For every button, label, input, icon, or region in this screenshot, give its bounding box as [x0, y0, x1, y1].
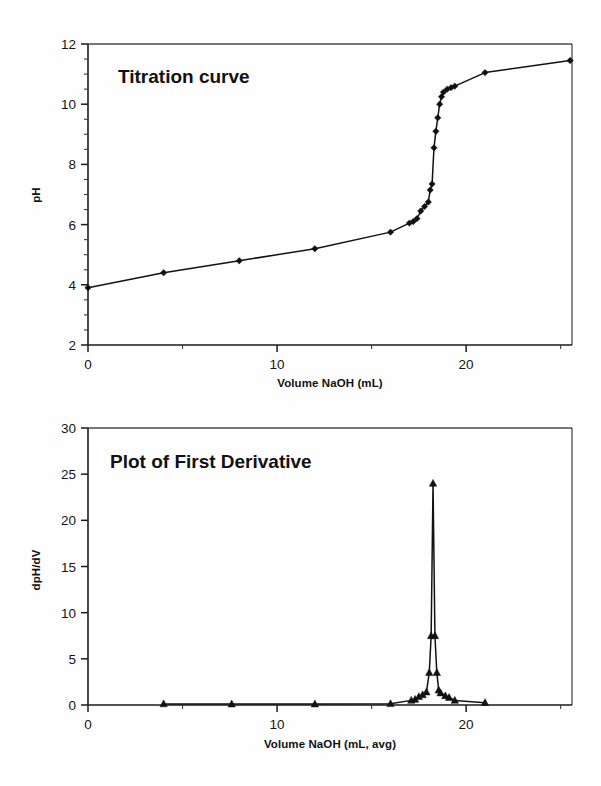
y-tick-label: 20 — [61, 513, 76, 528]
data-point-marker — [236, 258, 242, 264]
data-point-marker — [160, 270, 166, 276]
titration-curve-chart: 0102024681012 Titration curve Volume NaO… — [0, 0, 601, 400]
data-series — [160, 479, 489, 707]
data-point-marker — [429, 479, 436, 486]
data-point-marker — [387, 229, 393, 235]
y-tick-label: 10 — [61, 97, 76, 112]
x-tick-label: 10 — [270, 357, 285, 372]
y-tick-label: 6 — [68, 218, 76, 233]
data-point-marker — [85, 285, 91, 291]
data-point-marker — [435, 115, 441, 121]
x-tick-label: 0 — [84, 717, 92, 732]
data-point-marker — [423, 688, 430, 695]
data-point-marker — [482, 69, 488, 75]
plot-frame — [88, 44, 572, 345]
x-tick-label: 20 — [459, 717, 474, 732]
y-tick-label: 0 — [68, 698, 76, 713]
data-point-marker — [427, 187, 433, 193]
data-series — [85, 57, 574, 291]
first-derivative-chart: 01020051015202530 Plot of First Derivati… — [0, 400, 601, 786]
data-point-marker — [436, 101, 442, 107]
series-line — [88, 61, 570, 288]
x-tick-label: 20 — [459, 357, 474, 372]
y-tick-label: 4 — [68, 278, 76, 293]
y-tick-label: 10 — [61, 606, 76, 621]
y-tick-label: 5 — [68, 652, 76, 667]
chart-title: Plot of First Derivative — [110, 451, 312, 472]
data-point-marker — [433, 128, 439, 134]
x-tick-label: 10 — [270, 717, 285, 732]
x-tick-label: 0 — [84, 357, 92, 372]
data-point-marker — [312, 245, 318, 251]
axis-ticks — [81, 44, 561, 352]
data-point-marker — [426, 669, 433, 676]
y-tick-label: 12 — [61, 37, 76, 52]
y-tick-label: 25 — [61, 467, 76, 482]
titration-curve-svg: 0102024681012 Titration curve Volume NaO… — [0, 0, 601, 400]
axis-tick-labels: 0102024681012 — [61, 37, 474, 372]
y-tick-label: 8 — [68, 157, 76, 172]
x-axis-title: Volume NaOH (mL, avg) — [264, 738, 396, 750]
axes — [88, 44, 572, 345]
y-tick-label: 2 — [68, 338, 76, 353]
y-tick-label: 15 — [61, 560, 76, 575]
x-axis-title: Volume NaOH (mL) — [277, 377, 383, 389]
data-point-marker — [431, 145, 437, 151]
figure-page: 0102024681012 Titration curve Volume NaO… — [0, 0, 601, 786]
y-tick-label: 30 — [61, 421, 76, 436]
data-point-marker — [429, 181, 435, 187]
y-axis-title: pH — [30, 187, 42, 203]
y-axis-title: dpH/dV — [30, 549, 42, 590]
first-derivative-svg: 01020051015202530 Plot of First Derivati… — [0, 400, 601, 786]
chart-title: Titration curve — [118, 66, 250, 87]
data-point-marker — [433, 669, 440, 676]
